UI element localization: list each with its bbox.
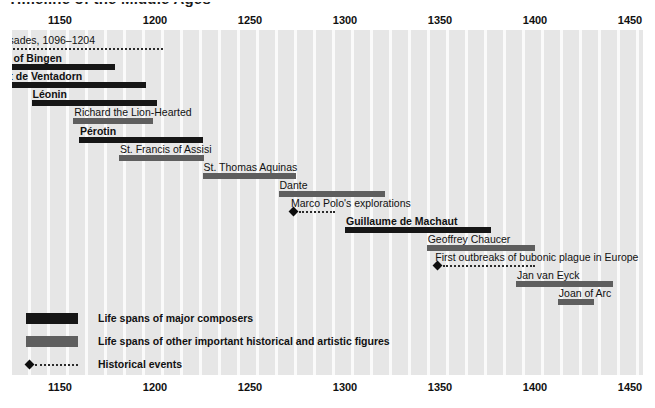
timeline-row-label: Dante: [280, 179, 308, 191]
axis-tick-1300: 1300: [333, 381, 357, 393]
event-leader-line: [299, 211, 336, 213]
timeline-row-label: First outbreaks of bubonic plague in Eur…: [435, 251, 638, 263]
axis-tick-1300: 1300: [333, 14, 357, 26]
axis-bottom: 1150120012501300135014001450: [0, 381, 655, 397]
legend-label: Historical events: [98, 358, 182, 370]
timeline-bar[interactable]: [516, 281, 613, 287]
timeline-row-label: Age of Crusades, 1096–1204: [12, 34, 95, 46]
legend-swatch: [26, 313, 78, 324]
legend-label: Life spans of other important historical…: [98, 335, 390, 347]
timeline-row[interactable]: Pérotin: [12, 125, 643, 143]
crusades-span-line: [12, 48, 163, 50]
timeline-bar[interactable]: [73, 118, 153, 124]
timeline-row[interactable]: Bernart de Ventadorn: [12, 70, 643, 88]
timeline-row-label: Hildegard of Bingen: [12, 52, 62, 64]
timeline-bar[interactable]: [345, 227, 491, 233]
timeline-row[interactable]: Marco Polo's explorations: [12, 197, 643, 215]
timeline-row-label: Bernart de Ventadorn: [12, 70, 82, 82]
diamond-icon: [25, 360, 35, 370]
axis-tick-1200: 1200: [143, 14, 167, 26]
timeline-row[interactable]: Léonin: [12, 88, 643, 106]
page-title: Timeline of the Middle Ages: [8, 0, 211, 7]
axis-tick-1350: 1350: [428, 381, 452, 393]
axis-tick-1250: 1250: [238, 381, 262, 393]
timeline-row-label: St. Francis of Assisi: [120, 143, 212, 155]
timeline-row-label: St. Thomas Aquinas: [204, 161, 298, 173]
timeline-bar[interactable]: [32, 100, 157, 106]
timeline-bar[interactable]: [203, 173, 296, 179]
timeline-row[interactable]: St. Thomas Aquinas: [12, 161, 643, 179]
axis-tick-1350: 1350: [428, 14, 452, 26]
axis-top: 1150120012501300135014001450: [0, 14, 655, 30]
axis-tick-1150: 1150: [48, 381, 72, 393]
legend-label: Life spans of major composers: [98, 312, 253, 324]
timeline-bar[interactable]: [12, 82, 146, 88]
timeline-plot-area: Age of Crusades, 1096–1204Hildegard of B…: [12, 30, 643, 375]
timeline-bar[interactable]: [119, 155, 205, 161]
timeline-row[interactable]: Guillaume de Machaut: [12, 215, 643, 233]
timeline-row-label: Jan van Eyck: [517, 269, 579, 281]
timeline-row[interactable]: Jan van Eyck: [12, 269, 643, 287]
axis-tick-1150: 1150: [48, 14, 72, 26]
timeline-row-label: Joan of Arc: [559, 287, 612, 299]
timeline-row-label: Marco Polo's explorations: [291, 197, 411, 209]
axis-tick-1400: 1400: [523, 14, 547, 26]
timeline-row-label: Pérotin: [80, 125, 116, 137]
timeline-bar[interactable]: [558, 299, 594, 305]
axis-tick-1250: 1250: [238, 14, 262, 26]
timeline-row-label: Guillaume de Machaut: [346, 215, 457, 227]
timeline-row[interactable]: Hildegard of Bingen: [12, 52, 643, 70]
axis-tick-1450: 1450: [618, 381, 642, 393]
timeline-row[interactable]: Richard the Lion-Hearted: [12, 106, 643, 124]
timeline-row-label: Geoffrey Chaucer: [428, 233, 511, 245]
event-leader-line: [443, 265, 535, 267]
timeline-row[interactable]: St. Francis of Assisi: [12, 143, 643, 161]
timeline-row[interactable]: Age of Crusades, 1096–1204: [12, 34, 643, 52]
timeline-row[interactable]: First outbreaks of bubonic plague in Eur…: [12, 251, 643, 269]
axis-tick-1450: 1450: [618, 14, 642, 26]
axis-tick-1200: 1200: [143, 381, 167, 393]
legend-leader-line: [35, 364, 78, 366]
timeline-bar[interactable]: [427, 245, 535, 251]
timeline-row[interactable]: Joan of Arc: [12, 287, 643, 305]
legend-swatch: [26, 336, 78, 347]
axis-tick-1400: 1400: [523, 381, 547, 393]
timeline-bar[interactable]: [12, 64, 115, 70]
timeline-row-label: Richard the Lion-Hearted: [74, 106, 191, 118]
timeline-bar[interactable]: [279, 191, 385, 197]
timeline-bar[interactable]: [79, 137, 203, 143]
timeline-row[interactable]: Geoffrey Chaucer: [12, 233, 643, 251]
timeline-row-label: Léonin: [33, 88, 67, 100]
timeline-row[interactable]: Dante: [12, 179, 643, 197]
